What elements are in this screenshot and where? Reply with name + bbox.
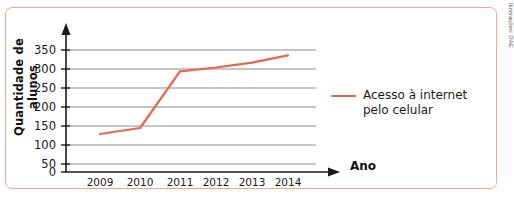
x-axis-title: Ano [350,159,376,173]
x-tick-2014: 2014 [269,176,307,188]
x-tick-2009: 2009 [81,176,119,188]
y-axis-title-wrap: Quantidade de alunos [12,152,142,168]
x-tick-2011: 2011 [161,176,199,188]
x-tick-2012: 2012 [197,176,235,188]
x-tick-2010: 2010 [121,176,159,188]
legend-label-line1: Acesso à internet [363,88,467,103]
legend-swatch-acesso-internet [331,95,356,97]
gridlines [66,50,316,164]
legend-label-line2: pelo celular [363,103,467,118]
legend-label-acesso-internet: Acesso à internet pelo celular [363,88,467,118]
y-axis-title: Quantidade de alunos [12,22,28,152]
y-axis-arrow [62,23,71,35]
chart-page: Ilustrações: DAE [0,0,514,199]
x-axis-arrow [328,168,340,177]
x-tick-2013: 2013 [233,176,271,188]
chart-legend: Acesso à internet pelo celular [331,88,467,118]
chart-plot-area: 350 300 250 200 150 100 50 0 2009 2010 2… [0,0,514,199]
series-line-acesso-internet [100,55,288,134]
